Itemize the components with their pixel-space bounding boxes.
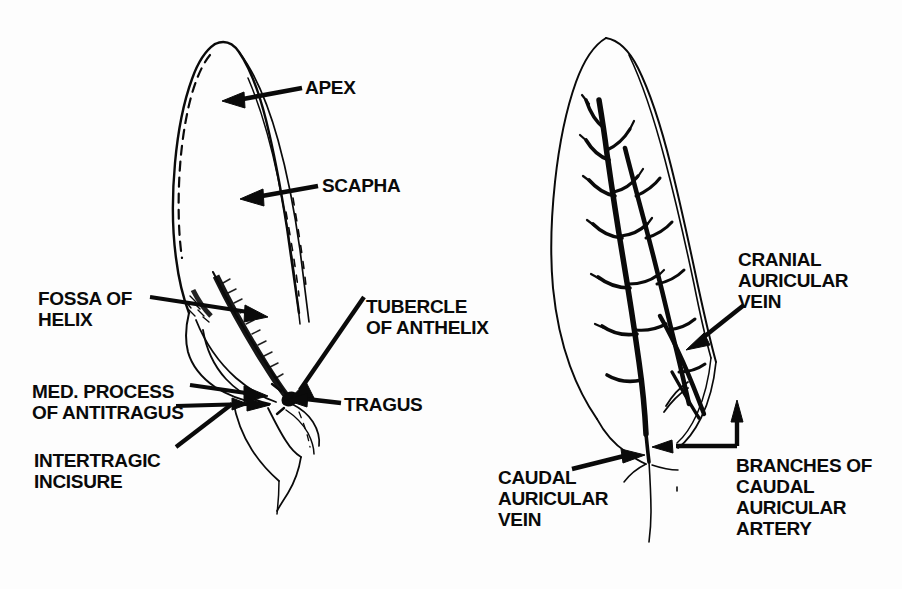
label-fossa-of-helix: FOSSA OFHELIX xyxy=(38,288,132,330)
label-intertragic-incisure-line2: INCISURE xyxy=(34,471,122,492)
vein-base-spur-right xyxy=(652,465,678,470)
caudal-auricular-artery-branch-1 xyxy=(660,316,704,414)
leader-scapha xyxy=(240,186,318,206)
vein-base-confluence xyxy=(646,434,649,462)
label-branches-line3: AURICULAR xyxy=(736,497,846,518)
left-pinna-drawing xyxy=(173,42,319,514)
intertragic-incisure-notch xyxy=(268,408,301,457)
accessory-auricular-vein xyxy=(625,148,689,404)
leader-cranial-auricular-vein xyxy=(686,305,744,350)
antihelix-hatching xyxy=(223,279,283,378)
vein-stalk-descending xyxy=(649,462,651,542)
label-med-process-line1: MED. PROCESS xyxy=(32,381,174,402)
label-tubercle-of-anthelix: TUBERCLEOF ANTHELIX xyxy=(366,296,489,338)
label-tubercle-of-anthelix-line1: TUBERCLE xyxy=(366,296,467,317)
label-scapha: SCAPHA xyxy=(322,175,400,196)
label-cranial-auricular-vein: CRANIALAURICULARVEIN xyxy=(738,249,848,312)
anatomy-figure-page: APEX SCAPHA FOSSA OFHELIX TUBERCLEOF ANT… xyxy=(0,0,902,589)
label-cranial-auricular-vein-line1: CRANIAL xyxy=(738,249,821,270)
label-branches-line1: BRANCHES OF xyxy=(736,455,872,476)
label-branches-of-caudal-auricular-artery: BRANCHES OFCAUDALAURICULARARTERY xyxy=(736,455,872,539)
label-med-process-line2: OF ANTITRAGUS xyxy=(32,402,184,423)
label-cranial-auricular-vein-line3: VEIN xyxy=(738,291,781,312)
label-caudal-auricular-vein-line2: AURICULAR xyxy=(498,488,608,509)
label-tragus: TRAGUS xyxy=(344,394,422,415)
label-cranial-auricular-vein-line2: AURICULAR xyxy=(738,270,848,291)
label-branches-line2: CAUDAL xyxy=(736,476,814,497)
label-intertragic-incisure-line1: INTERTRAGIC xyxy=(34,450,161,471)
label-branches-line4: ARTERY xyxy=(736,518,812,539)
apex-inner-dashed-contour xyxy=(179,55,210,258)
vein-base-spur-left xyxy=(624,464,646,482)
tragus-outline xyxy=(292,404,319,446)
label-caudal-auricular-vein-line1: CAUDAL xyxy=(498,467,576,488)
leader-fossa-of-helix xyxy=(150,297,268,322)
label-tubercle-of-anthelix-line2: OF ANTHELIX xyxy=(366,317,489,338)
leader-caudal-auricular-vein xyxy=(572,449,645,469)
pinna-base-right-edge xyxy=(277,457,301,511)
base-inner-fold xyxy=(299,412,310,447)
cranial-vein-twigs xyxy=(580,95,664,328)
label-med-process-of-antitragus: MED. PROCESSOF ANTITRAGUS xyxy=(32,381,184,423)
label-caudal-auricular-vein: CAUDALAURICULARVEIN xyxy=(498,467,608,530)
pinna-base-left-edge xyxy=(233,400,279,481)
label-apex: APEX xyxy=(305,77,356,98)
label-intertragic-incisure: INTERTRAGICINCISURE xyxy=(34,450,161,492)
label-fossa-of-helix-line1: FOSSA OF xyxy=(38,288,132,309)
label-caudal-auricular-vein-line3: VEIN xyxy=(498,509,541,530)
leader-branches-caudal-artery xyxy=(652,400,743,453)
label-fossa-of-helix-line2: HELIX xyxy=(38,309,92,330)
